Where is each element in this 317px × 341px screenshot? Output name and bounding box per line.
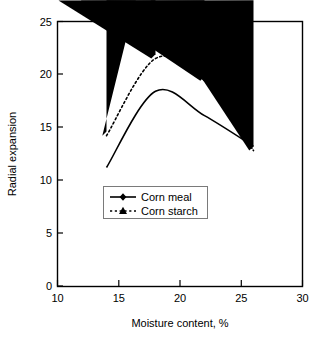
y-tick-label: 10 bbox=[40, 174, 52, 186]
y-axis-title: Radial expansion bbox=[6, 112, 18, 196]
y-tick-label: 15 bbox=[40, 121, 52, 133]
y-tick-labels: 0 5 10 15 20 25 bbox=[40, 16, 52, 292]
x-tick-label: 30 bbox=[296, 292, 308, 304]
y-tick-label: 0 bbox=[46, 280, 52, 292]
x-tick-label: 10 bbox=[51, 292, 63, 304]
x-tick-label: 25 bbox=[235, 292, 247, 304]
chart-legend[interactable]: Corn meal Corn starch bbox=[104, 187, 208, 219]
x-tick-label: 15 bbox=[113, 292, 125, 304]
legend-label-corn-meal: Corn meal bbox=[141, 191, 192, 203]
x-tick-label: 20 bbox=[174, 292, 186, 304]
x-axis-title: Moisture content, % bbox=[131, 317, 228, 329]
radial-expansion-line-chart: 0 5 10 15 20 25 10 15 20 25 30 Moisture … bbox=[0, 0, 317, 341]
y-tick-label: 20 bbox=[40, 68, 52, 80]
x-tick-labels: 10 15 20 25 30 bbox=[51, 292, 308, 304]
chart-figure: 0 5 10 15 20 25 10 15 20 25 30 Moisture … bbox=[0, 0, 317, 341]
y-tick-label: 5 bbox=[46, 227, 52, 239]
y-tick-label: 25 bbox=[40, 16, 52, 28]
legend-label-corn-starch: Corn starch bbox=[141, 205, 198, 217]
